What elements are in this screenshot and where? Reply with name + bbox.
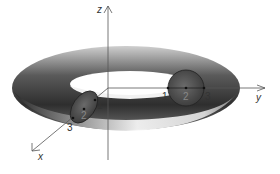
x-section-label-2: 2 [81,111,87,121]
y-section-label-2: 2 [183,92,189,102]
y-axis-label: y [256,93,261,103]
torus-diagram [0,0,280,174]
z-axis-label: z [97,5,102,15]
x-section-label-1: 1 [97,101,103,111]
x-axis-label: x [38,152,43,162]
x-section-label-3: 3 [67,123,73,133]
y-section-label-3: 3 [205,92,211,102]
torus-body [12,46,240,131]
y-section-label-1: 1 [162,92,168,102]
